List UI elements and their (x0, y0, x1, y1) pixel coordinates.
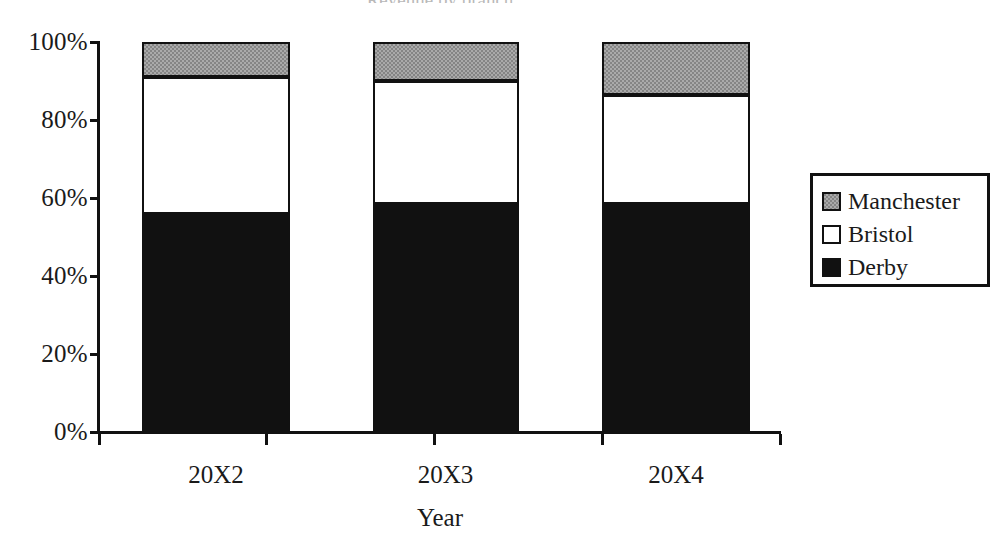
bar-segment-derby-20X4 (602, 204, 750, 432)
bar-segment-bristol-20X3 (373, 81, 519, 204)
y-axis-tick-label: 60% (2, 185, 88, 210)
x-axis-tick (779, 434, 782, 445)
bar-segment-manchester-20X3 (373, 42, 519, 81)
bar-segment-manchester-20X4 (602, 42, 750, 95)
x-axis-tick-label: 20X3 (386, 462, 506, 487)
bar-segment-bristol-20X4 (602, 95, 750, 204)
chart-legend: ManchesterBristolDerby (810, 173, 990, 287)
bar-20X2 (142, 42, 290, 432)
legend-item-label: Bristol (848, 222, 913, 246)
x-axis-title: Year (0, 505, 880, 530)
y-axis-tick (90, 41, 100, 44)
y-axis-line (97, 41, 100, 434)
x-axis-tick (433, 434, 436, 445)
y-axis-tick (90, 119, 100, 122)
y-axis-tick (90, 197, 100, 200)
x-axis-tick (601, 434, 604, 445)
legend-item-label: Manchester (848, 189, 960, 213)
y-axis-tick-label: 40% (2, 263, 88, 288)
legend-item-bristol[interactable]: Bristol (822, 218, 987, 250)
bar-20X4 (602, 42, 750, 432)
y-axis-tick-label: 20% (2, 341, 88, 366)
y-axis-tick-label: 0% (2, 419, 88, 444)
legend-item-label: Derby (848, 255, 908, 279)
bar-segment-bristol-20X2 (142, 77, 290, 214)
chart-title-remnant: Revenue by branch (290, 0, 590, 3)
legend-swatch-white-icon (822, 225, 841, 244)
bar-segment-derby-20X3 (373, 204, 519, 432)
y-axis-tick-label: 80% (2, 107, 88, 132)
x-axis-tick-label: 20X2 (156, 462, 276, 487)
bar-segment-manchester-20X2 (142, 42, 290, 77)
y-axis-tick-label: 100% (2, 29, 88, 54)
x-axis-tick-label: 20X4 (616, 462, 736, 487)
legend-swatch-black-icon (822, 258, 841, 277)
x-axis-tick (98, 434, 101, 445)
stacked-bar-chart: Revenue by branch 100%80%60%40%20%0% 20X… (0, 0, 1005, 547)
y-axis-tick (90, 353, 100, 356)
legend-item-derby[interactable]: Derby (822, 251, 987, 283)
bar-segment-derby-20X2 (142, 214, 290, 432)
legend-item-manchester[interactable]: Manchester (822, 185, 987, 217)
bar-20X3 (373, 42, 519, 432)
x-axis-tick (265, 434, 268, 445)
y-axis-tick (90, 275, 100, 278)
legend-swatch-gray-icon (822, 192, 841, 211)
